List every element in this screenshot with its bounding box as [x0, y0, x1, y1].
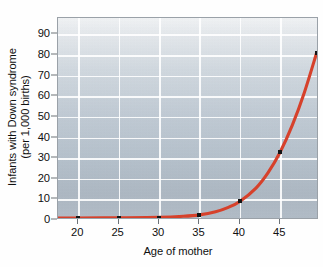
y-axis-tick-label: 80	[24, 48, 50, 60]
y-axis-tick-mark	[51, 74, 57, 75]
data-point	[197, 213, 201, 217]
y-axis-tick-label: 30	[24, 151, 50, 163]
x-axis-tick-mark	[77, 219, 78, 224]
y-axis-tick-label: 70	[24, 69, 50, 81]
data-point	[315, 51, 318, 55]
x-axis-tick-label: 30	[152, 226, 164, 238]
data-point	[278, 150, 282, 154]
y-axis-tick-label: 60	[24, 89, 50, 101]
x-axis-tick-mark	[118, 219, 119, 224]
y-axis-tick-labels: 0102030405060708090	[24, 0, 50, 267]
y-axis-tick-mark	[51, 115, 57, 116]
y-axis-tick-label: 20	[24, 172, 50, 184]
y-axis-tick-mark	[51, 198, 57, 199]
data-point	[238, 199, 242, 203]
y-axis-tick-label: 90	[24, 27, 50, 39]
x-axis-tick-label: 25	[111, 226, 123, 238]
plot-area	[57, 17, 318, 219]
x-axis-title: Age of mother	[0, 245, 323, 257]
y-axis-tick-label: 50	[24, 110, 50, 122]
x-axis-tick-label: 45	[273, 226, 285, 238]
x-axis-tick-mark	[239, 219, 240, 224]
y-axis-tick-mark	[51, 157, 57, 158]
y-axis-tick-mark	[51, 136, 57, 137]
chart-figure: Infants with Down syndrome (per 1,000 bi…	[0, 0, 323, 267]
x-axis-tick-mark	[279, 219, 280, 224]
x-axis-title-text: Age of mother	[144, 245, 213, 257]
y-axis-tick-mark	[51, 219, 57, 220]
y-axis-tick-mark	[51, 54, 57, 55]
y-axis-tick-label: 0	[24, 213, 50, 225]
data-curve	[58, 18, 318, 219]
y-axis-tick-label: 40	[24, 131, 50, 143]
x-axis-tick-label: 35	[192, 226, 204, 238]
x-axis-tick-label: 40	[233, 226, 245, 238]
y-axis-tick-label: 10	[24, 192, 50, 204]
x-axis-tick-label: 20	[71, 226, 83, 238]
x-axis-tick-mark	[158, 219, 159, 224]
x-axis-tick-mark	[198, 219, 199, 224]
y-axis-tick-mark	[51, 95, 57, 96]
y-axis-title-line-1: Infants with Down syndrome	[6, 48, 19, 186]
y-axis-tick-mark	[51, 33, 57, 34]
y-axis-tick-mark	[51, 177, 57, 178]
